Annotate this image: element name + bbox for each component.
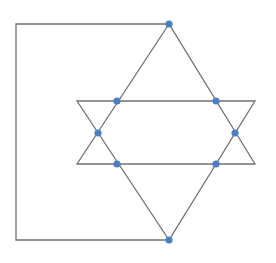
node-upper-left — [113, 97, 120, 104]
node-bottom-apex — [165, 236, 172, 243]
nodes-group — [94, 20, 238, 243]
node-middle-right — [231, 129, 238, 136]
diagram-svg — [0, 0, 276, 263]
node-middle-left — [94, 129, 101, 136]
down-triangle — [77, 101, 255, 240]
node-lower-left — [113, 160, 120, 167]
node-lower-right — [212, 160, 219, 167]
node-upper-right — [212, 97, 219, 104]
hexagram-diagram — [0, 0, 276, 263]
edges-group — [16, 24, 255, 240]
node-top-apex — [165, 20, 172, 27]
bracket-connector — [16, 24, 169, 240]
